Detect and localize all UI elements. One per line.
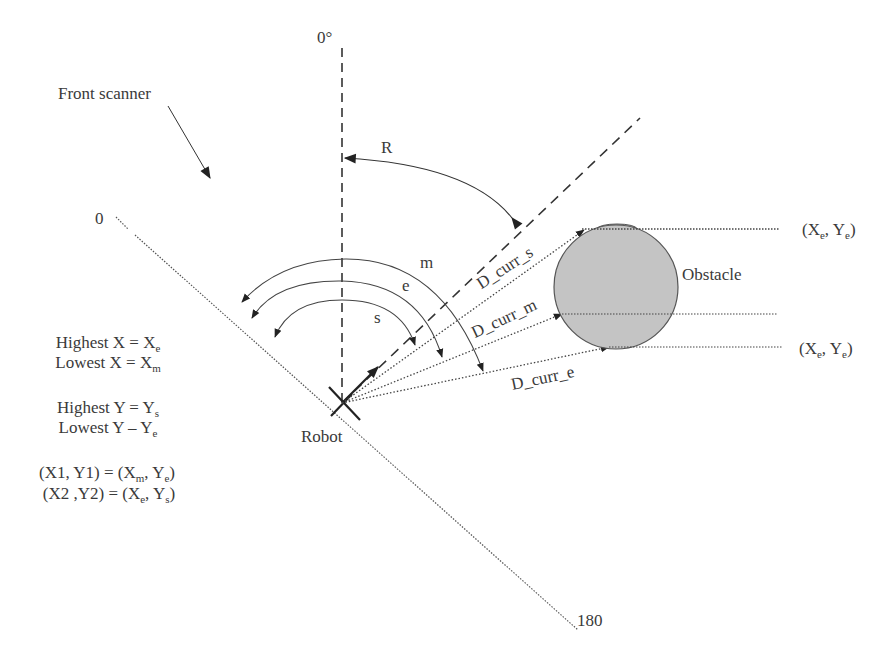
scan-start-label: 0 — [95, 210, 104, 227]
obstacle-label: Obstacle — [682, 266, 741, 283]
rule-highest-y: Highest Y = Ys — [48, 398, 168, 418]
robot-label: Robot — [301, 428, 343, 445]
scan-line-main — [135, 235, 578, 630]
arc-e-label: e — [402, 277, 410, 294]
arc-m-label: m — [420, 254, 433, 271]
front-scanner-pointer — [168, 106, 210, 178]
rule-highest-x: Highest X = Xe — [48, 333, 168, 353]
point-1-definition: (X1, Y1) = (Xm, Ye) — [22, 463, 192, 483]
arc-e — [252, 281, 442, 357]
arc-s-label: s — [374, 309, 381, 326]
front-scanner-label: Front scanner — [58, 85, 151, 102]
obstacle-circle — [554, 225, 678, 349]
zero-degree-label: 0° — [317, 29, 332, 46]
scan-end-label: 180 — [577, 612, 603, 629]
scan-line — [116, 217, 128, 229]
arc-s — [275, 300, 415, 345]
top-point-coords: (Xe, Ye) — [802, 221, 856, 238]
angle-r-arc — [345, 158, 512, 218]
bottom-point-coords: (Xe, Ye) — [799, 340, 853, 357]
rule-lowest-y: Lowest Y – Ye — [48, 418, 168, 438]
robot-heading-arrow — [342, 367, 378, 403]
arc-m — [242, 259, 483, 371]
robot-cross-a — [329, 387, 360, 420]
point-2-definition: (X2 ,Y2) = (Xe, Ys) — [24, 484, 194, 504]
angle-r-label: R — [381, 139, 392, 156]
rule-lowest-x: Lowest X = Xm — [48, 353, 168, 373]
